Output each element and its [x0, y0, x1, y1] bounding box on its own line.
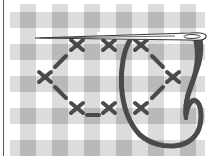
gingham-intersection: [84, 140, 100, 156]
gingham-intersection: [52, 140, 68, 156]
gingham-intersection: [148, 12, 164, 28]
gingham-intersection: [20, 44, 36, 60]
gingham-intersection: [180, 12, 196, 28]
gingham-intersection: [84, 76, 100, 92]
gingham-intersection: [20, 140, 36, 156]
gingham-intersection: [148, 108, 164, 124]
gingham-intersection: [84, 44, 100, 60]
gingham-intersection: [52, 12, 68, 28]
gingham-intersection: [116, 140, 132, 156]
gingham-intersection: [52, 108, 68, 124]
gingham-intersection: [180, 44, 196, 60]
gingham-intersection: [20, 108, 36, 124]
cross-stitch-illustration: [0, 0, 216, 156]
gingham-intersection: [20, 12, 36, 28]
gingham-intersection: [116, 12, 132, 28]
gingham-intersection: [20, 76, 36, 92]
illustration-frame: [0, 0, 216, 156]
gingham-horizontal-band: [10, 12, 205, 28]
gingham-intersection: [84, 12, 100, 28]
